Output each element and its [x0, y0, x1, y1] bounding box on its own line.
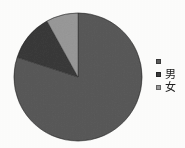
- pie-chart-svg: [0, 0, 156, 148]
- pie-chart-figure: 男 女: [0, 0, 185, 148]
- pie-slices-group: [14, 13, 142, 141]
- legend-item-1[interactable]: [156, 56, 185, 67]
- legend-swatch-1: [156, 59, 161, 64]
- legend-label-male: 男: [165, 69, 176, 80]
- legend-swatch-female: [156, 85, 161, 90]
- pie-plot-area: [0, 0, 156, 148]
- legend-label-female: 女: [165, 82, 176, 93]
- legend-swatch-male: [156, 72, 161, 77]
- legend-item-male[interactable]: 男: [156, 69, 185, 80]
- pie-slice-paths: [14, 13, 142, 141]
- chart-legend: 男 女: [156, 56, 185, 95]
- legend-item-female[interactable]: 女: [156, 82, 185, 93]
